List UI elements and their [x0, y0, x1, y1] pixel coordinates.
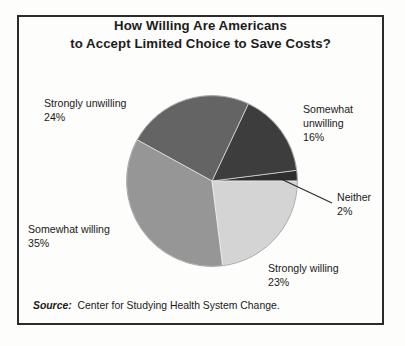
chart-title-line-1: How Willing Are Americans: [19, 17, 382, 35]
slice-label-strongly-willing-value: 23%: [268, 275, 339, 289]
slice-label-somewhat-unwilling-value: 16%: [303, 130, 353, 144]
slice-label-strongly-willing: Strongly willing 23%: [268, 261, 339, 289]
slice-label-somewhat-unwilling-name-line2: unwilling: [303, 116, 353, 130]
pie-chart-svg: [126, 95, 298, 267]
slice-label-strongly-unwilling-value: 24%: [44, 110, 126, 124]
slice-label-strongly-unwilling-name: Strongly unwilling: [44, 96, 126, 110]
pie-chart: [126, 95, 298, 267]
source-value: Center for Studying Health System Change…: [77, 300, 279, 311]
slice-label-neither: Neither 2%: [337, 190, 371, 218]
source-note: Source: Center for Studying Health Syste…: [33, 300, 280, 311]
slice-label-strongly-unwilling: Strongly unwilling 24%: [44, 96, 126, 124]
slice-label-somewhat-willing-name: Somewhat willing: [28, 222, 110, 236]
slice-label-neither-name: Neither: [337, 190, 371, 204]
slice-label-somewhat-willing-value: 35%: [28, 236, 110, 250]
page-title: How Willing Are Americans to Accept Limi…: [19, 17, 382, 53]
chart-title-line-2: to Accept Limited Choice to Save Costs?: [19, 35, 382, 53]
pie-slice-strongly-willing: [212, 181, 297, 266]
slice-label-somewhat-unwilling: Somewhat unwilling 16%: [303, 102, 353, 145]
slice-label-strongly-willing-name: Strongly willing: [268, 261, 339, 275]
source-label: Source:: [33, 300, 72, 311]
figure-container: How Willing Are Americans to Accept Limi…: [0, 0, 405, 346]
slice-label-somewhat-willing: Somewhat willing 35%: [28, 222, 110, 250]
slice-label-neither-value: 2%: [337, 204, 371, 218]
slice-label-somewhat-unwilling-name-line1: Somewhat: [303, 102, 353, 116]
